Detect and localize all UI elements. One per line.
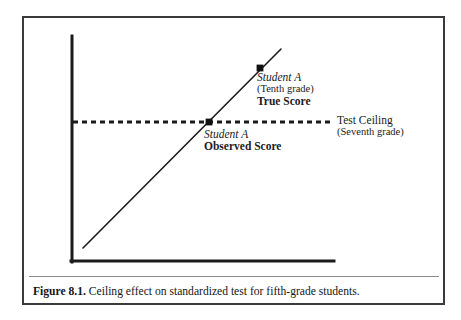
figure-caption-number: Figure 8.1. — [33, 285, 86, 298]
test-ceiling-grade-label: (Seventh grade) — [337, 126, 404, 137]
true-score-grade-label: (Tenth grade) — [257, 83, 314, 94]
observed-score-title-label: Observed Score — [204, 140, 281, 152]
true-score-title-label: True Score — [257, 95, 314, 107]
test-ceiling-title-label: Test Ceiling — [337, 114, 404, 126]
caption-divider — [29, 276, 439, 277]
figure-border — [22, 16, 445, 305]
true-score-student-label: Student A — [257, 71, 314, 83]
observed-score-student-label: Student A — [204, 128, 281, 140]
figure-caption: Figure 8.1. Ceiling effect on standardiz… — [33, 285, 437, 298]
figure-caption-text: Ceiling effect on standardized test for … — [86, 285, 360, 298]
observed-score-annotation: Student A Observed Score — [204, 128, 281, 153]
figure-container: Student A (Tenth grade) True Score Stude… — [0, 0, 461, 320]
test-ceiling-annotation: Test Ceiling (Seventh grade) — [337, 114, 404, 138]
true-score-annotation: Student A (Tenth grade) True Score — [257, 71, 314, 107]
